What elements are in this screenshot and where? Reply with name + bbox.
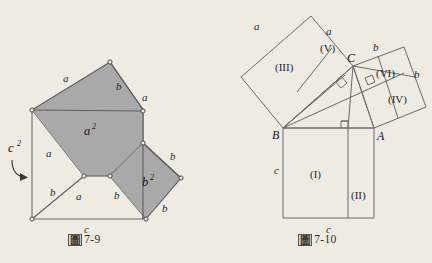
caption-figure-7-9: 圖7-9 [68, 233, 101, 246]
square-on-leg-a [241, 16, 353, 128]
caption-cjk-glyph-right: 圖 [298, 234, 312, 246]
c-squared-exponent: 2 [17, 139, 21, 148]
right-angle-mark-hypotenuse [341, 121, 348, 128]
point-label-B: B [272, 128, 280, 142]
region-label-VI: (VI) [376, 67, 395, 80]
label-a-left: a [46, 147, 52, 159]
label-b-top: b [373, 41, 379, 53]
label-b-squared-exp: 2 [150, 173, 154, 182]
region-label-IV: (IV) [388, 93, 407, 106]
triangle-ABC [283, 66, 374, 128]
label-c-left: c [274, 164, 279, 176]
point-label-A: A [376, 129, 385, 143]
right-angle-mark-leg-b [365, 75, 375, 85]
point-label-C: C [347, 51, 356, 65]
region-label-V: (V) [320, 42, 336, 55]
region-label-III: (III) [275, 61, 294, 74]
label-b-mid: b [114, 189, 120, 201]
label-b-squared: b [142, 175, 148, 189]
label-a-squared-exp: 2 [92, 122, 96, 131]
figure-7-9-canvas: c 2 a b a a b a b b b c a 2 b 2 [0, 0, 432, 263]
label-a-upper-left: a [254, 20, 260, 32]
square-on-hypotenuse [283, 128, 374, 218]
caption-number-right: 7-10 [314, 233, 336, 245]
label-a-squared: a [84, 124, 90, 138]
arrow-head-icon [20, 173, 28, 181]
label-a-lowerleft: a [76, 190, 82, 202]
label-b-bottomright: b [162, 202, 168, 214]
c-squared-label-group: c 2 [8, 139, 28, 181]
label-b-lowerleft: b [50, 186, 56, 198]
label-b-right: b [170, 150, 176, 162]
caption-figure-7-10: 圖7-10 [298, 233, 337, 246]
label-a-top: a [63, 72, 69, 84]
label-a-upper-right: a [326, 25, 332, 37]
label-b-right: b [414, 68, 420, 80]
figure-page: c 2 a b a a b a b b b c a 2 b 2 [0, 0, 432, 263]
label-a-right: a [142, 91, 148, 103]
label-b-topright: b [116, 80, 122, 92]
region-label-I: (I) [310, 168, 321, 181]
caption-number-left: 7-9 [84, 233, 100, 245]
c-squared-label: c [8, 141, 14, 155]
region-label-II: (II) [351, 189, 366, 202]
caption-cjk-glyph-left: 圖 [68, 234, 82, 246]
